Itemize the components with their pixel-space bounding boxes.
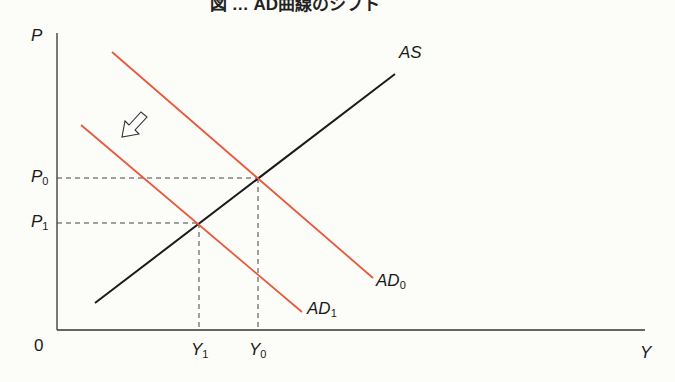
y-axis-label: Y	[640, 343, 651, 363]
p0-label: P0	[31, 167, 48, 187]
p1-label-main: P	[31, 212, 42, 231]
y0-label-sub: 0	[260, 348, 266, 360]
ad0-label-main: AD	[376, 271, 400, 290]
ad0-label: AD0	[376, 271, 406, 291]
y1-label-main: Y	[191, 340, 202, 359]
ad1-curve	[81, 125, 302, 312]
shift-arrow-icon	[122, 112, 147, 137]
as-label: AS	[399, 43, 422, 63]
ad1-label: AD1	[307, 299, 337, 319]
y0-label-main: Y	[249, 340, 260, 359]
p1-label: P1	[31, 212, 48, 232]
origin-label: 0	[34, 336, 43, 356]
p1-label-sub: 1	[42, 220, 48, 232]
y1-label: Y1	[191, 340, 208, 360]
ad1-label-main: AD	[307, 299, 331, 318]
p0-label-main: P	[31, 167, 42, 186]
p-axis-label: P	[31, 26, 42, 46]
y1-label-sub: 1	[202, 348, 208, 360]
ad1-label-sub: 1	[331, 307, 337, 319]
p0-label-sub: 0	[42, 175, 48, 187]
as-curve	[95, 74, 395, 303]
ad-as-chart	[0, 0, 675, 382]
y0-label: Y0	[249, 340, 266, 360]
ad0-curve	[112, 52, 373, 278]
ad0-label-sub: 0	[400, 279, 406, 291]
